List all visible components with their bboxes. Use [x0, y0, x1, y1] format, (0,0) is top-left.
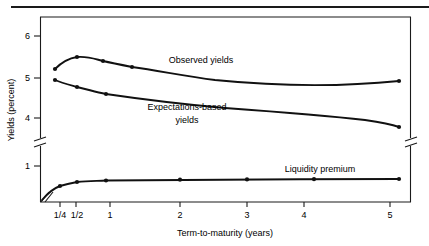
- x-tick-label-4: 4: [301, 210, 306, 220]
- series-label-expectations-based-yields-line2: yields: [175, 115, 199, 125]
- x-tick-label-half: 1/2: [71, 210, 84, 220]
- x-tick-label-quarter: 1/4: [54, 210, 67, 220]
- figure-container: 6 5 4 1 Yields (percent) 1/4 1/2 1 2 3 4…: [0, 0, 429, 246]
- y-tick-label-4: 4: [25, 113, 30, 123]
- series-label-liquidity-premium: Liquidity premium: [285, 164, 356, 174]
- x-axis-ticks: [60, 202, 390, 207]
- y-tick-label-1: 1: [25, 161, 30, 171]
- y-tick-label-6: 6: [25, 31, 30, 41]
- y-axis-break-mark: [34, 137, 417, 147]
- y-tick-label-5: 5: [25, 73, 30, 83]
- series-label-observed-yields: Observed yields: [169, 55, 234, 65]
- series-line-liquidity-premium: [42, 179, 399, 200]
- series-line-expectations-based-yields: [55, 80, 399, 127]
- x-tick-label-5: 5: [387, 210, 392, 220]
- x-tick-label-2: 2: [177, 210, 182, 220]
- x-tick-label-1: 1: [107, 210, 112, 220]
- chart-svg: 6 5 4 1 Yields (percent) 1/4 1/2 1 2 3 4…: [0, 0, 429, 246]
- series-markers-expectations-based-yields: [53, 78, 401, 129]
- series-label-expectations-based-yields-line1: Expectations-based: [147, 102, 226, 112]
- y-axis-title: Yields (percent): [6, 79, 16, 142]
- x-tick-label-3: 3: [244, 210, 249, 220]
- x-axis-title: Term-to-maturity (years): [177, 228, 273, 238]
